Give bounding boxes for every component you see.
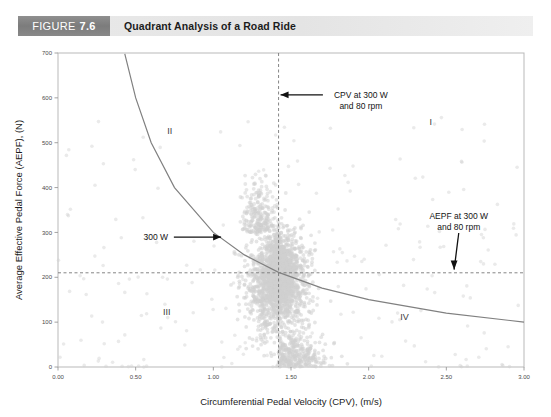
scatter-point bbox=[243, 341, 247, 345]
scatter-point bbox=[224, 307, 228, 311]
scatter-point bbox=[255, 336, 259, 340]
scatter-point bbox=[359, 336, 363, 340]
scatter-point bbox=[302, 289, 306, 293]
scatter-point bbox=[261, 336, 265, 340]
scatter-point bbox=[288, 306, 292, 310]
scatter-point bbox=[90, 145, 94, 149]
scatter-point bbox=[192, 240, 196, 244]
scatter-point bbox=[244, 302, 248, 306]
scatter-point bbox=[238, 345, 242, 349]
scatter-point bbox=[303, 358, 307, 362]
scatter-point bbox=[260, 202, 264, 206]
scatter-point bbox=[296, 159, 300, 163]
scatter-point bbox=[306, 274, 310, 278]
scatter-point bbox=[264, 174, 268, 178]
scatter-point bbox=[272, 307, 276, 311]
scatter-point bbox=[272, 224, 276, 228]
scatter-point bbox=[255, 276, 259, 280]
scatter-point bbox=[284, 326, 288, 330]
x-tick-label: 2.00 bbox=[363, 374, 375, 380]
scatter-point bbox=[480, 233, 484, 237]
scatter-point bbox=[317, 351, 321, 355]
scatter-point bbox=[396, 311, 400, 315]
y-tick-label: 700 bbox=[42, 50, 53, 56]
scatter-point bbox=[262, 168, 266, 172]
scatter-point bbox=[252, 187, 256, 191]
scatter-point bbox=[102, 342, 106, 346]
scatter-point bbox=[120, 236, 124, 240]
scatter-point bbox=[242, 352, 246, 356]
scatter-point bbox=[285, 242, 289, 246]
scatter-point bbox=[293, 323, 297, 327]
scatter-point bbox=[255, 240, 259, 244]
scatter-point bbox=[90, 314, 94, 318]
scatter-point bbox=[264, 247, 268, 251]
scatter-point bbox=[104, 365, 108, 369]
scatter-point bbox=[236, 275, 240, 279]
scatter-point bbox=[402, 284, 406, 288]
scatter-point bbox=[426, 224, 430, 228]
scatter-point bbox=[398, 222, 402, 226]
scatter-point bbox=[243, 265, 247, 269]
scatter-point bbox=[274, 288, 278, 292]
scatter-point bbox=[174, 320, 178, 324]
scatter-point bbox=[289, 346, 293, 350]
scatter-point bbox=[282, 315, 286, 319]
x-tick-label: 0.00 bbox=[52, 374, 64, 380]
scatter-point bbox=[315, 191, 319, 195]
scatter-point bbox=[466, 324, 470, 328]
scatter-point bbox=[309, 364, 313, 368]
scatter-point bbox=[249, 212, 253, 216]
scatter-point bbox=[302, 264, 306, 268]
scatter-point bbox=[301, 269, 305, 273]
scatter-point bbox=[219, 130, 223, 134]
scatter-point bbox=[247, 229, 251, 233]
scatter-point bbox=[145, 312, 149, 316]
scatter-point bbox=[281, 341, 285, 345]
scatter-point bbox=[258, 177, 262, 181]
scatter-point bbox=[307, 358, 311, 362]
scatter-point bbox=[311, 309, 315, 313]
x-tick-label: 0.50 bbox=[130, 374, 142, 380]
scatter-point bbox=[269, 336, 273, 340]
y-tick-label: 300 bbox=[42, 230, 53, 236]
scatter-point bbox=[260, 251, 264, 255]
scatter-point bbox=[297, 344, 301, 348]
scatter-point bbox=[353, 254, 357, 258]
scatter-point bbox=[158, 146, 162, 150]
scatter-point bbox=[294, 310, 298, 314]
scatter-point bbox=[253, 181, 257, 185]
scatter-point bbox=[306, 318, 310, 322]
scatter-point bbox=[328, 167, 332, 171]
scatter-point bbox=[328, 364, 332, 368]
scatter-point bbox=[281, 304, 285, 308]
scatter-point bbox=[237, 303, 241, 307]
scatter-point bbox=[294, 362, 298, 366]
scatter-point bbox=[307, 301, 311, 305]
scatter-point bbox=[431, 198, 435, 202]
scatter-point bbox=[256, 328, 260, 332]
scatter-point bbox=[266, 214, 270, 218]
scatter-point bbox=[266, 221, 270, 225]
scatter-point bbox=[288, 260, 292, 264]
scatter-point bbox=[288, 228, 292, 232]
scatter-point bbox=[263, 211, 267, 215]
scatter-point bbox=[297, 333, 301, 337]
scatter-point bbox=[280, 325, 284, 329]
scatter-point bbox=[280, 298, 284, 302]
scatter-point bbox=[464, 358, 468, 362]
scatter-point bbox=[307, 291, 311, 295]
scatter-point bbox=[245, 295, 249, 299]
scatter-point bbox=[260, 237, 264, 241]
scatter-point bbox=[270, 211, 274, 215]
figure-number: 7.6 bbox=[80, 20, 96, 32]
scatter-point bbox=[338, 247, 342, 251]
scatter-point bbox=[346, 181, 350, 185]
scatter-point bbox=[273, 295, 277, 299]
x-axis-title: Circumferential Pedal Velocity (CPV), (m… bbox=[200, 396, 382, 407]
scatter-point bbox=[281, 264, 285, 268]
scatter-point bbox=[290, 355, 294, 359]
y-tick-label: 400 bbox=[42, 185, 53, 191]
scatter-point bbox=[123, 291, 127, 295]
scatter-point bbox=[284, 191, 288, 195]
